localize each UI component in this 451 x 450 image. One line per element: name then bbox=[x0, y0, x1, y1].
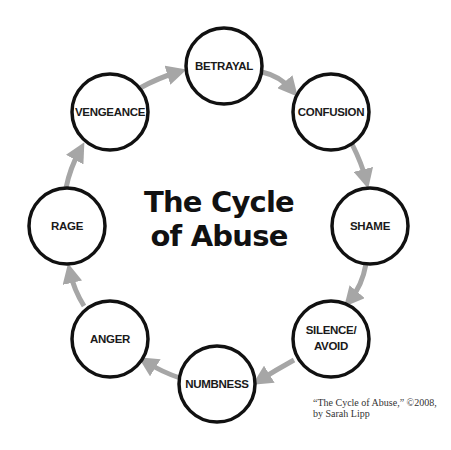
node-label: NUMBNESS bbox=[185, 378, 249, 390]
node-shame: SHAME bbox=[332, 188, 408, 264]
cycle-diagram: BETRAYAL CONFUSION SHAME SILENCE/ AVOID … bbox=[0, 0, 451, 450]
node-silence-avoid: SILENCE/ AVOID bbox=[293, 301, 369, 377]
node-betrayal: BETRAYAL bbox=[186, 28, 262, 104]
credit-line2: by Sarah Lipp bbox=[313, 408, 437, 419]
node-label: CONFUSION bbox=[298, 106, 364, 118]
credit-caption: “The Cycle of Abuse,” ©2008, by Sarah Li… bbox=[313, 397, 437, 419]
arrow-shame-to-silence bbox=[350, 264, 366, 300]
arrow-vengeance-to-betrayal bbox=[140, 72, 178, 88]
title-line1: The Cycle bbox=[144, 185, 294, 219]
node-label-line2: AVOID bbox=[314, 340, 348, 352]
node-vengeance: VENGEANCE bbox=[72, 74, 148, 150]
node-label: SHAME bbox=[350, 220, 391, 232]
node-confusion: CONFUSION bbox=[293, 74, 369, 150]
node-label-line1: SILENCE/ bbox=[306, 324, 358, 336]
arrow-confusion-to-shame bbox=[352, 144, 366, 180]
node-rage: RAGE bbox=[29, 188, 105, 264]
node-label: ANGER bbox=[90, 333, 131, 345]
arrow-numbness-to-anger bbox=[146, 362, 180, 378]
arrow-betrayal-to-confusion bbox=[262, 72, 292, 90]
node-numbness: NUMBNESS bbox=[179, 346, 255, 422]
node-anger: ANGER bbox=[72, 301, 148, 377]
arrow-anger-to-rage bbox=[70, 272, 84, 306]
title-line2: of Abuse bbox=[150, 219, 287, 253]
node-label: VENGEANCE bbox=[75, 106, 146, 118]
arrow-silence-to-numbness bbox=[260, 360, 294, 380]
arrow-rage-to-vengeance bbox=[66, 150, 80, 188]
node-label: RAGE bbox=[51, 220, 84, 232]
credit-line1: “The Cycle of Abuse,” ©2008, bbox=[313, 397, 437, 408]
node-label: BETRAYAL bbox=[195, 60, 253, 72]
